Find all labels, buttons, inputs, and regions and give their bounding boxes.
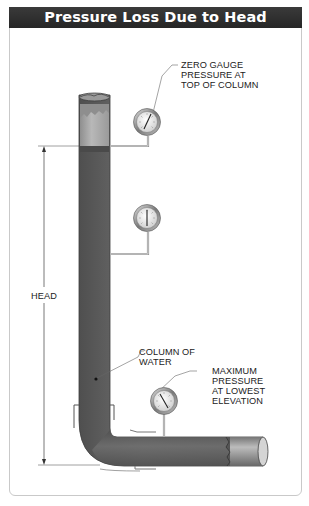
- pipe: [74, 93, 268, 471]
- arrow-up-icon: [42, 146, 46, 152]
- max-pressure-label: MAXIMUM PRESSURE AT LOWEST ELEVATION: [212, 366, 265, 406]
- column-of-water-label: COLUMN OF WATER: [139, 347, 195, 367]
- middle-gauge-icon: [134, 205, 161, 232]
- top-gauge-icon: [134, 109, 161, 136]
- bottom-gauge-icon: [151, 388, 178, 415]
- zero-gauge-label: ZERO GAUGE PRESSURE AT TOP OF COLUMN: [181, 60, 259, 90]
- arrow-down-icon: [42, 459, 46, 465]
- head-label: HEAD: [31, 291, 57, 301]
- pressure-head-diagram: [0, 0, 309, 506]
